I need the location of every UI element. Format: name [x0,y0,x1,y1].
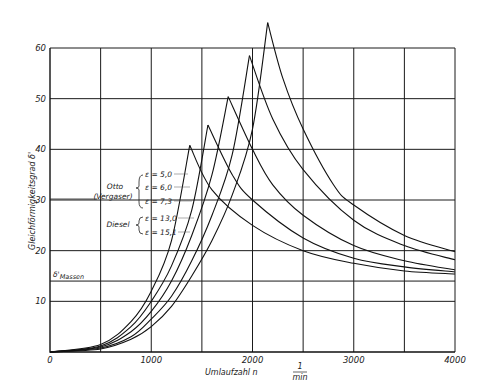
y-tick-label: 10 [35,296,46,306]
y-tick-label: 50 [35,94,46,104]
x-tick-label: 3000 [343,355,365,365]
series-curve-rise [50,125,208,352]
chart: δ'Massen10203040506001000200030004000Uml… [0,0,490,392]
x-tick-label: 4000 [444,355,466,365]
y-tick-label: 60 [35,43,46,53]
legend-entry: ε = 6,0 [145,183,172,192]
series-curve-fall [249,56,455,260]
x-axis-unit-num: 1 [297,362,302,371]
legend-entry: ε = 13,0 [145,214,177,223]
legend-entry: ε = 15,1 [145,228,177,237]
line-chart: δ'Massen10203040506001000200030004000Uml… [0,0,490,392]
legend-group-otto-sub: (Vergaser) [93,192,132,201]
reference-line-label: δ'Massen [53,270,84,281]
legend-entry: ε = 7,3 [145,197,172,206]
legend-group-diesel: Diesel [106,220,130,229]
x-axis-unit-den: min [292,373,307,382]
legend-group-otto: Otto [107,182,124,191]
series-curve-fall [268,23,455,252]
legend-brace-diesel [136,217,143,234]
x-tick-label: 0 [47,355,52,365]
x-tick-label: 2000 [242,355,264,365]
y-axis-title: Gleichförmigkeitsgrad δ' [28,152,37,250]
legend-entry: ε = 5,0 [145,170,172,179]
x-tick-label: 1000 [140,355,162,365]
series-curve-fall [228,97,455,270]
x-axis-title: Umlaufzahl n [205,368,258,377]
legend-brace-otto [136,175,143,208]
